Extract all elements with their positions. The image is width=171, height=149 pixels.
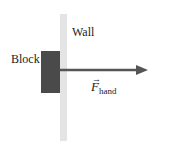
force-subscript: hand xyxy=(99,86,117,96)
diagram-canvas: Wall Block →Fhand xyxy=(0,0,171,149)
force-arrow-icon xyxy=(0,0,171,149)
force-label: →Fhand xyxy=(91,80,116,93)
vector-arrow-icon: → xyxy=(92,75,101,84)
